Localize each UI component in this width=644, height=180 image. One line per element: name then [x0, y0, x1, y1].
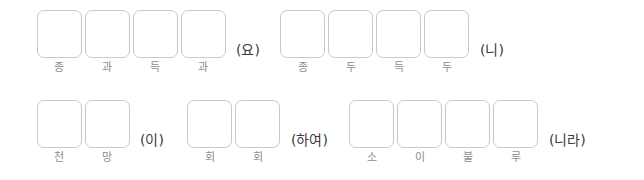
answer-box[interactable] — [85, 100, 130, 148]
answer-cell[interactable]: 이 — [396, 100, 444, 164]
group-suffix-label: (이) — [140, 133, 164, 147]
worksheet-row-2: 천 망 (이) 회 회 (하여) — [35, 100, 586, 164]
answer-box[interactable] — [187, 100, 232, 148]
answer-box[interactable] — [493, 100, 538, 148]
group-suffix-label: (요) — [236, 43, 260, 57]
cell-hint-label: 두 — [442, 61, 452, 74]
worksheet-canvas: 종 과 득 과 (요) — [0, 0, 644, 180]
answer-group-2-2: 회 회 (하여) — [186, 100, 328, 164]
answer-box[interactable] — [376, 10, 421, 58]
answer-group-2-3: 소 이 불 루 (니라) — [348, 100, 586, 164]
answer-cell[interactable]: 득 — [375, 10, 423, 74]
cell-hint-label: 득 — [394, 61, 404, 74]
cell-hint-label: 과 — [198, 61, 208, 74]
cell-hint-label: 과 — [102, 61, 112, 74]
cell-group: 종 두 득 두 — [279, 10, 471, 74]
answer-cell[interactable]: 소 — [348, 100, 396, 164]
answer-cell[interactable]: 천 — [35, 100, 83, 164]
cell-hint-label: 망 — [102, 151, 112, 164]
cell-hint-label: 회 — [205, 151, 215, 164]
worksheet-row-1: 종 과 득 과 (요) — [35, 10, 504, 74]
answer-box[interactable] — [349, 100, 394, 148]
answer-cell[interactable]: 루 — [492, 100, 540, 164]
cell-group: 종 과 득 과 — [35, 10, 227, 74]
cell-hint-label: 루 — [511, 151, 521, 164]
group-suffix-label: (하여) — [291, 133, 328, 147]
cell-hint-label: 종 — [298, 61, 308, 74]
answer-cell[interactable]: 득 — [131, 10, 179, 74]
answer-cell[interactable]: 종 — [35, 10, 83, 74]
answer-cell[interactable]: 과 — [179, 10, 227, 74]
answer-box[interactable] — [424, 10, 469, 58]
answer-box[interactable] — [445, 100, 490, 148]
cell-hint-label: 소 — [367, 151, 377, 164]
cell-group: 회 회 — [186, 100, 282, 164]
answer-box[interactable] — [133, 10, 178, 58]
answer-cell[interactable]: 회 — [186, 100, 234, 164]
answer-box[interactable] — [85, 10, 130, 58]
answer-group-2-1: 천 망 (이) — [35, 100, 164, 164]
answer-cell[interactable]: 불 — [444, 100, 492, 164]
cell-hint-label: 천 — [54, 151, 64, 164]
group-suffix-label: (니) — [480, 43, 504, 57]
cell-hint-label: 이 — [415, 151, 425, 164]
cell-hint-label: 회 — [253, 151, 263, 164]
answer-cell[interactable]: 종 — [279, 10, 327, 74]
answer-cell[interactable]: 망 — [83, 100, 131, 164]
cell-hint-label: 두 — [346, 61, 356, 74]
answer-box[interactable] — [235, 100, 280, 148]
answer-box[interactable] — [397, 100, 442, 148]
answer-cell[interactable]: 두 — [423, 10, 471, 74]
answer-box[interactable] — [181, 10, 226, 58]
cell-group: 소 이 불 루 — [348, 100, 540, 164]
answer-cell[interactable]: 과 — [83, 10, 131, 74]
cell-hint-label: 득 — [150, 61, 160, 74]
answer-cell[interactable]: 회 — [234, 100, 282, 164]
answer-group-1-2: 종 두 득 두 (니) — [279, 10, 504, 74]
cell-hint-label: 불 — [463, 151, 473, 164]
answer-group-1-1: 종 과 득 과 (요) — [35, 10, 260, 74]
answer-box[interactable] — [280, 10, 325, 58]
answer-box[interactable] — [37, 100, 82, 148]
answer-box[interactable] — [37, 10, 82, 58]
cell-hint-label: 종 — [54, 61, 64, 74]
cell-group: 천 망 — [35, 100, 131, 164]
answer-cell[interactable]: 두 — [327, 10, 375, 74]
group-suffix-label: (니라) — [549, 133, 586, 147]
answer-box[interactable] — [328, 10, 373, 58]
